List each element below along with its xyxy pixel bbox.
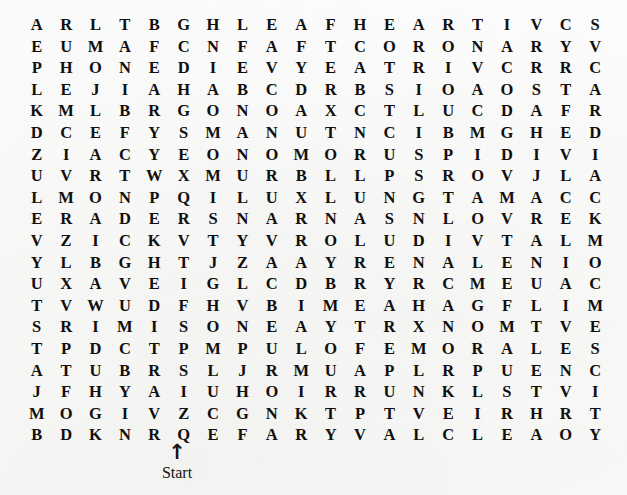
grid-cell[interactable]: I — [81, 230, 110, 252]
grid-cell[interactable]: A — [522, 424, 551, 446]
grid-cell[interactable]: L — [51, 252, 80, 274]
grid-cell[interactable]: F — [51, 381, 80, 403]
grid-cell[interactable]: R — [287, 230, 316, 252]
grid-cell[interactable]: M — [198, 122, 227, 144]
grid-cell[interactable]: E — [140, 57, 169, 79]
grid-cell[interactable]: M — [287, 360, 316, 382]
grid-cell[interactable]: H — [198, 295, 227, 317]
grid-cell[interactable]: D — [140, 295, 169, 317]
grid-cell[interactable]: I — [463, 144, 492, 166]
grid-cell[interactable]: F — [345, 338, 374, 360]
grid-cell[interactable]: P — [375, 165, 404, 187]
grid-cell[interactable]: F — [492, 295, 521, 317]
grid-cell[interactable]: R — [345, 144, 374, 166]
grid-cell[interactable]: O — [257, 100, 286, 122]
grid-cell[interactable]: T — [140, 338, 169, 360]
grid-cell[interactable]: A — [228, 122, 257, 144]
grid-cell[interactable]: N — [463, 36, 492, 58]
grid-cell[interactable]: M — [316, 295, 345, 317]
grid-cell[interactable]: A — [492, 338, 521, 360]
grid-cell[interactable]: I — [404, 122, 433, 144]
grid-cell[interactable]: K — [81, 424, 110, 446]
grid-cell[interactable]: F — [228, 424, 257, 446]
grid-cell[interactable]: S — [404, 165, 433, 187]
grid-cell[interactable]: V — [257, 57, 286, 79]
grid-cell[interactable]: E — [345, 295, 374, 317]
grid-cell[interactable]: U — [345, 187, 374, 209]
grid-cell[interactable]: T — [375, 57, 404, 79]
grid-cell[interactable]: N — [228, 100, 257, 122]
grid-cell[interactable]: R — [51, 316, 80, 338]
grid-cell[interactable]: N — [228, 316, 257, 338]
grid-cell[interactable]: R — [287, 208, 316, 230]
grid-cell[interactable]: A — [345, 360, 374, 382]
grid-cell[interactable]: A — [404, 14, 433, 36]
grid-cell[interactable]: Y — [316, 252, 345, 274]
grid-cell[interactable]: A — [580, 79, 610, 101]
grid-cell[interactable]: W — [81, 295, 110, 317]
grid-cell[interactable]: Y — [316, 424, 345, 446]
grid-cell[interactable]: E — [433, 403, 462, 425]
grid-cell[interactable]: V — [110, 273, 139, 295]
grid-cell[interactable]: R — [345, 273, 374, 295]
grid-cell[interactable]: C — [463, 100, 492, 122]
grid-cell[interactable]: M — [110, 316, 139, 338]
grid-cell[interactable]: L — [228, 14, 257, 36]
grid-cell[interactable]: T — [316, 36, 345, 58]
grid-cell[interactable]: A — [140, 381, 169, 403]
grid-cell[interactable]: N — [257, 403, 286, 425]
grid-cell[interactable]: O — [198, 144, 227, 166]
grid-cell[interactable]: P — [22, 57, 51, 79]
grid-cell[interactable]: H — [81, 381, 110, 403]
grid-cell[interactable]: N — [345, 122, 374, 144]
grid-cell[interactable]: S — [169, 360, 198, 382]
grid-cell[interactable]: C — [433, 424, 462, 446]
grid-cell[interactable]: V — [492, 208, 521, 230]
grid-cell[interactable]: A — [81, 208, 110, 230]
grid-cell[interactable]: T — [375, 403, 404, 425]
letter-grid[interactable]: ARLTBGHLEAFHEARTIVCSEUMAFCNFAFTCORONARYV… — [22, 14, 610, 446]
grid-cell[interactable]: V — [463, 57, 492, 79]
grid-cell[interactable]: O — [375, 36, 404, 58]
grid-cell[interactable]: G — [404, 187, 433, 209]
grid-cell[interactable]: U — [22, 273, 51, 295]
grid-cell[interactable]: Y — [22, 252, 51, 274]
grid-cell[interactable]: E — [580, 316, 610, 338]
grid-cell[interactable]: I — [110, 79, 139, 101]
grid-cell[interactable]: E — [51, 79, 80, 101]
grid-cell[interactable]: D — [22, 122, 51, 144]
grid-cell[interactable]: N — [522, 252, 551, 274]
grid-cell[interactable]: O — [257, 144, 286, 166]
grid-cell[interactable]: R — [492, 403, 521, 425]
grid-cell[interactable]: N — [375, 187, 404, 209]
grid-cell[interactable]: I — [580, 381, 610, 403]
grid-cell[interactable]: P — [345, 403, 374, 425]
grid-cell[interactable]: P — [169, 338, 198, 360]
grid-cell[interactable]: R — [375, 316, 404, 338]
grid-cell[interactable]: M — [580, 295, 610, 317]
grid-cell[interactable]: I — [110, 403, 139, 425]
grid-cell[interactable]: F — [140, 36, 169, 58]
grid-cell[interactable]: D — [287, 79, 316, 101]
grid-cell[interactable]: L — [316, 187, 345, 209]
grid-cell[interactable]: R — [51, 208, 80, 230]
grid-cell[interactable]: R — [345, 381, 374, 403]
grid-cell[interactable]: M — [463, 273, 492, 295]
grid-cell[interactable]: Y — [551, 36, 580, 58]
grid-cell[interactable]: B — [287, 165, 316, 187]
grid-cell[interactable]: A — [22, 14, 51, 36]
grid-cell[interactable]: M — [463, 122, 492, 144]
grid-cell[interactable]: R — [551, 57, 580, 79]
grid-cell[interactable]: N — [404, 252, 433, 274]
grid-cell[interactable]: A — [522, 230, 551, 252]
grid-cell[interactable]: B — [316, 273, 345, 295]
grid-cell[interactable]: A — [433, 252, 462, 274]
grid-cell[interactable]: E — [375, 252, 404, 274]
grid-cell[interactable]: I — [551, 295, 580, 317]
grid-cell[interactable]: H — [198, 14, 227, 36]
grid-cell[interactable]: N — [228, 208, 257, 230]
grid-cell[interactable]: E — [316, 57, 345, 79]
grid-cell[interactable]: E — [551, 122, 580, 144]
grid-cell[interactable]: A — [257, 424, 286, 446]
grid-cell[interactable]: A — [198, 79, 227, 101]
